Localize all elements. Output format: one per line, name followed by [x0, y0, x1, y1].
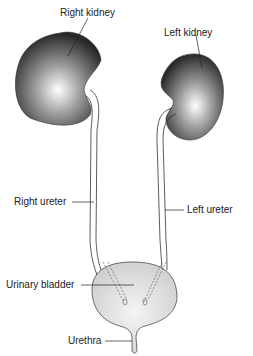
label-urethra: Urethra [68, 335, 101, 347]
diagram-canvas [0, 0, 253, 356]
left-kidney [161, 35, 223, 140]
label-left-kidney: Left kidney [164, 27, 212, 39]
label-right-ureter: Right ureter [14, 196, 66, 208]
label-right-kidney: Right kidney [60, 7, 115, 19]
right-kidney [15, 18, 101, 125]
label-left-ureter: Left ureter [187, 204, 233, 216]
label-urinary-bladder: Urinary bladder [6, 279, 74, 291]
urinary-system-diagram: Right kidney Left kidney Right ureter Le… [0, 0, 253, 356]
